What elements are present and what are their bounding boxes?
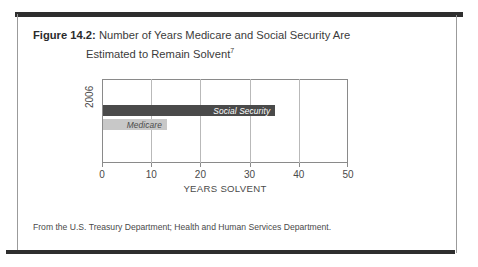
gridline — [250, 79, 251, 163]
x-tick-label: 40 — [284, 169, 314, 180]
x-tick-label: 30 — [235, 169, 265, 180]
bar-social-security: Social Security — [103, 105, 275, 116]
x-tick-mark — [151, 163, 152, 167]
figure-container: Figure 14.2: Number of Years Medicare an… — [0, 0, 478, 267]
x-tick-label: 20 — [185, 169, 215, 180]
top-rule — [15, 12, 463, 17]
x-tick-mark — [299, 163, 300, 167]
footnote-marker: 7 — [230, 47, 234, 54]
bar-medicare: Medicare — [103, 119, 167, 130]
x-tick-label: 0 — [87, 169, 117, 180]
gridline — [299, 79, 300, 163]
bar-chart: Social SecurityMedicare 01020304050 YEAR… — [102, 79, 348, 163]
figure-title: Figure 14.2: Number of Years Medicare an… — [33, 27, 433, 43]
x-axis-title: YEARS SOLVENT — [102, 183, 348, 194]
x-tick-mark — [347, 163, 348, 167]
bar-label-medicare: Medicare — [127, 120, 167, 130]
figure-title-line-2: Estimated to Remain Solvent — [86, 48, 230, 60]
x-tick-mark — [250, 163, 251, 167]
y-axis-label: 2006 — [84, 86, 95, 108]
x-tick-label: 50 — [333, 169, 363, 180]
figure-title-line-1: Number of Years Medicare and Social Secu… — [99, 29, 350, 41]
figure-number: Figure 14.2: — [33, 29, 96, 41]
x-tick-mark — [200, 163, 201, 167]
gridline — [200, 79, 201, 163]
x-tick-mark — [102, 163, 103, 167]
right-frame-line — [456, 15, 457, 253]
bottom-rule — [6, 250, 455, 254]
left-frame-line — [17, 14, 18, 254]
x-tick-label: 10 — [136, 169, 166, 180]
figure-title-line-2-wrap: Estimated to Remain Solvent7 — [86, 43, 234, 62]
source-note: From the U.S. Treasury Department; Healt… — [33, 222, 331, 232]
bar-label-social-security: Social Security — [213, 106, 275, 116]
